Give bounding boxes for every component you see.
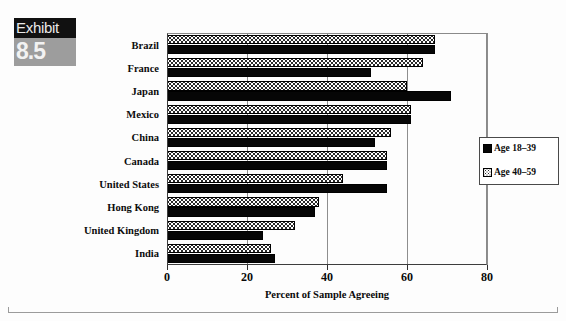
x-axis-tick-labels: 020406080 xyxy=(167,270,487,288)
legend-item-age-18-39: Age 18–39 xyxy=(483,143,536,153)
bar-japan-age-40-59 xyxy=(167,81,407,90)
category-label-mexico: Mexico xyxy=(126,109,159,120)
bar-chart: BrazilFranceJapanMexicoChinaCanadaUnited… xyxy=(0,0,566,321)
bar-mexico-age-40-59 xyxy=(167,105,411,114)
x-tick-label-20: 20 xyxy=(241,270,253,285)
legend-label-age-40-59: Age 40–59 xyxy=(494,167,536,177)
bar-hong-kong-age-40-59 xyxy=(167,197,319,206)
category-label-canada: Canada xyxy=(124,155,159,166)
category-label-china: China xyxy=(132,132,159,143)
footer-divider-right-cap xyxy=(557,307,558,313)
bar-group xyxy=(167,219,487,242)
category-label-brazil: Brazil xyxy=(132,39,159,50)
bar-rows xyxy=(167,33,487,265)
x-tick-label-80: 80 xyxy=(481,270,493,285)
footer-divider-left-cap xyxy=(8,307,9,313)
x-tick-label-40: 40 xyxy=(321,270,333,285)
bar-group xyxy=(167,195,487,218)
bar-france-age-40-59 xyxy=(167,58,423,67)
bar-group xyxy=(167,79,487,102)
bar-canada-age-40-59 xyxy=(167,151,387,160)
chart-legend: Age 18–39 Age 40–59 xyxy=(479,137,559,185)
bar-japan-age-18-39 xyxy=(167,91,451,100)
bar-group xyxy=(167,33,487,56)
bar-group xyxy=(167,56,487,79)
bar-brazil-age-40-59 xyxy=(167,35,435,44)
category-label-india: India xyxy=(135,248,159,259)
bar-united-kingdom-age-18-39 xyxy=(167,231,263,240)
bar-group xyxy=(167,172,487,195)
bar-mexico-age-18-39 xyxy=(167,115,411,124)
category-label-united-kingdom: United Kingdom xyxy=(84,225,159,236)
bar-united-states-age-18-39 xyxy=(167,184,387,193)
bar-india-age-40-59 xyxy=(167,244,271,253)
bar-brazil-age-18-39 xyxy=(167,45,435,54)
bar-group xyxy=(167,149,487,172)
bar-group xyxy=(167,103,487,126)
category-label-hong-kong: Hong Kong xyxy=(107,202,159,213)
bar-united-states-age-40-59 xyxy=(167,174,343,183)
plot-area xyxy=(167,33,487,265)
bar-india-age-18-39 xyxy=(167,254,275,263)
x-tick-label-0: 0 xyxy=(164,270,170,285)
category-axis-labels: BrazilFranceJapanMexicoChinaCanadaUnited… xyxy=(0,33,163,265)
bar-group xyxy=(167,126,487,149)
legend-item-age-40-59: Age 40–59 xyxy=(483,167,536,177)
bar-china-age-40-59 xyxy=(167,128,391,137)
legend-label-age-18-39: Age 18–39 xyxy=(494,143,536,153)
legend-swatch-icon-age-18-39 xyxy=(483,144,492,153)
category-label-japan: Japan xyxy=(132,86,159,97)
bar-hong-kong-age-18-39 xyxy=(167,207,315,216)
category-label-united-states: United States xyxy=(99,178,159,189)
footer-divider xyxy=(8,312,558,313)
legend-swatch-icon-age-40-59 xyxy=(483,168,492,177)
bar-group xyxy=(167,242,487,265)
bar-canada-age-18-39 xyxy=(167,161,387,170)
category-label-france: France xyxy=(128,62,160,73)
x-axis-title: Percent of Sample Agreeing xyxy=(167,289,487,300)
bar-france-age-18-39 xyxy=(167,68,371,77)
bar-china-age-18-39 xyxy=(167,138,375,147)
x-tick-label-60: 60 xyxy=(401,270,413,285)
exhibit-page: Exhibit 8.5 BrazilFranceJapanMexicoChina… xyxy=(0,0,566,321)
bar-united-kingdom-age-40-59 xyxy=(167,221,295,230)
